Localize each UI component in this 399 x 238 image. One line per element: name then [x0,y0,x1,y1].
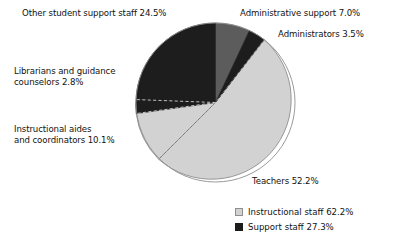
label-other-student-support-staff: Other student support staff 24.5% [22,8,166,19]
pie-chart-graphic [135,22,296,183]
pie-chart-figure: Other student support staff 24.5% Admini… [0,0,399,238]
label-librarians-guidance-counselors: Librarians and guidance counselors 2.8% [14,66,139,88]
label-instructional-aides-coordinators: Instructional aides and coordinators 10.… [14,124,142,146]
legend-item-support-staff: Support staff 27.3% [235,220,353,234]
label-teachers: Teachers 52.2% [252,176,318,187]
legend-swatch-support-staff [235,223,243,231]
label-administrators: Administrators 3.5% [278,29,364,40]
legend-item-instructional-staff: Instructional staff 62.2% [235,205,353,219]
pie-svg [135,22,296,183]
legend-label-support-staff: Support staff 27.3% [248,222,334,232]
legend-label-instructional-staff: Instructional staff 62.2% [248,207,353,217]
pie-slice-other-student-support [136,23,215,103]
legend-swatch-instructional-staff [235,208,243,216]
legend: Instructional staff 62.2% Support staff … [235,205,353,235]
label-administrative-support: Administrative support 7.0% [240,8,360,19]
